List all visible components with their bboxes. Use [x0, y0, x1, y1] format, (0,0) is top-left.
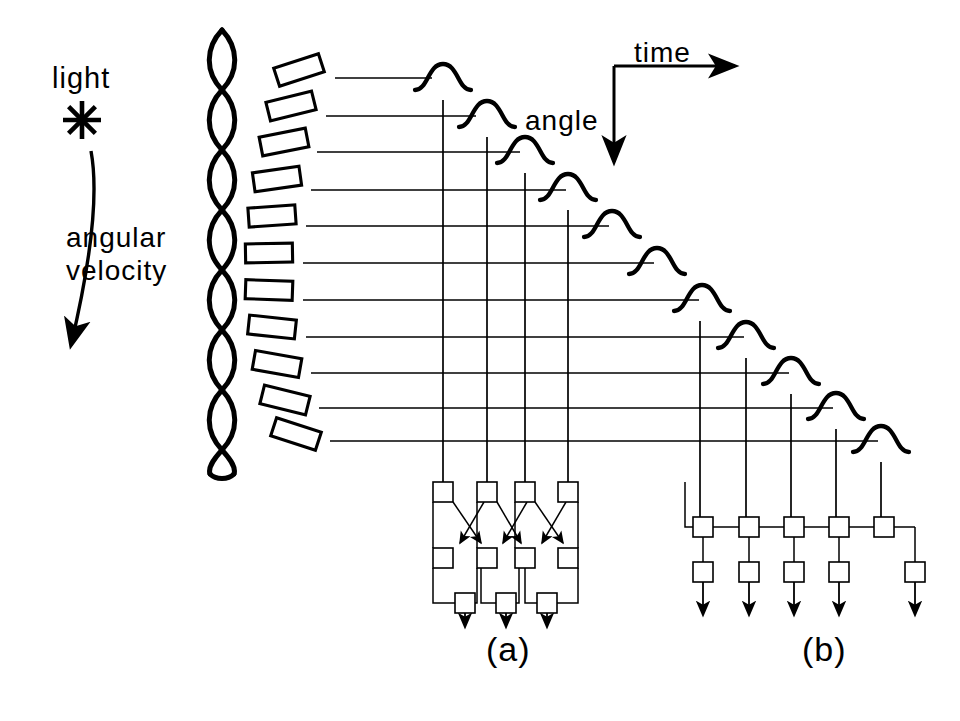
panel-b-label: (b) [802, 630, 847, 669]
chain-link [685, 482, 693, 527]
square-node-icon[interactable] [477, 482, 497, 502]
rectangle-detector-icon[interactable] [248, 315, 297, 339]
detector-array [245, 54, 324, 451]
square-node-icon[interactable] [784, 517, 804, 537]
link-cross [535, 502, 563, 543]
gaussian-pulse-icon [853, 426, 909, 452]
square-node-icon[interactable] [693, 562, 713, 582]
gaussian-pulse-icon [540, 174, 596, 200]
rectangle-detector-icon[interactable] [274, 54, 325, 87]
square-node-icon[interactable] [496, 593, 516, 613]
gaussian-pulse-icon [584, 211, 640, 237]
axis-group [614, 66, 735, 162]
light-label: light [52, 62, 110, 95]
square-node-icon[interactable] [905, 562, 925, 582]
double-helix-icon [209, 30, 235, 479]
angular-velocity-label-line1: angular [66, 222, 166, 254]
rectangle-detector-icon[interactable] [245, 280, 293, 301]
square-node-icon[interactable] [477, 548, 497, 568]
gaussian-pulse-icon [459, 101, 515, 127]
square-node-icon[interactable] [739, 517, 759, 537]
gaussian-pulse-icon [763, 358, 819, 384]
rectangle-detector-icon[interactable] [266, 91, 316, 121]
square-node-icon[interactable] [829, 517, 849, 537]
rectangle-detector-icon[interactable] [252, 351, 302, 378]
rectangle-detector-icon[interactable] [260, 385, 310, 415]
link-route [525, 568, 537, 603]
gaussian-pulse-icon [497, 137, 553, 163]
square-node-icon[interactable] [739, 562, 759, 582]
gaussian-pulse-icon [415, 64, 471, 90]
gaussian-pulse-icon [629, 248, 685, 274]
rectangle-detector-icon[interactable] [245, 243, 292, 263]
link-route [433, 568, 455, 603]
rectangle-detector-icon[interactable] [252, 166, 301, 191]
square-node-icon[interactable] [515, 482, 535, 502]
rectangle-detector-icon[interactable] [259, 128, 309, 156]
rectangle-detector-icon[interactable] [248, 205, 296, 227]
diagram-svg [0, 0, 960, 721]
rectangle-detector-icon[interactable] [271, 418, 322, 451]
network-a [433, 482, 578, 627]
square-node-icon[interactable] [537, 593, 557, 613]
square-node-icon[interactable] [829, 562, 849, 582]
square-node-icon[interactable] [874, 517, 894, 537]
angular-velocity-label-line2: velocity [66, 255, 167, 287]
asterisk-star-icon [63, 101, 101, 139]
panel-a-label: (a) [486, 630, 531, 669]
square-node-icon[interactable] [693, 517, 713, 537]
link-cross [542, 502, 566, 543]
link-cross [497, 502, 521, 543]
square-node-icon[interactable] [433, 548, 453, 568]
pulse-group [415, 64, 909, 452]
square-node-icon[interactable] [433, 482, 453, 502]
link-route [557, 568, 578, 603]
time-axis-label: time [634, 37, 691, 69]
link-cross [460, 502, 484, 543]
gaussian-pulse-icon [674, 285, 730, 311]
figure-canvas: light angular velocity time angle (a) (b… [0, 0, 960, 721]
network-b [685, 482, 925, 615]
square-node-icon[interactable] [558, 482, 578, 502]
angle-axis-label: angle [525, 105, 599, 137]
square-node-icon[interactable] [515, 548, 535, 568]
square-node-icon[interactable] [784, 562, 804, 582]
drop-line-group [443, 100, 881, 522]
gaussian-pulse-icon [718, 322, 774, 348]
square-node-icon[interactable] [558, 548, 578, 568]
square-node-icon[interactable] [455, 593, 475, 613]
gaussian-pulse-icon [808, 393, 864, 419]
link-route [481, 568, 496, 603]
